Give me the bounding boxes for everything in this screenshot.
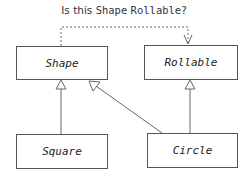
triangle-arrow-icon <box>56 80 66 89</box>
dashed-dependency-line <box>61 27 188 46</box>
rollable-interface-box: Rollable <box>144 45 238 80</box>
question-prefix: Is this <box>61 4 95 16</box>
shape-class-box: Shape <box>16 46 108 80</box>
square-class-label: Square <box>42 145 82 158</box>
question-rollable: Rollable <box>131 4 182 16</box>
triangle-arrow-icon <box>185 80 195 89</box>
triangle-arrow-icon <box>89 81 100 91</box>
question-label: Is this Shape Rollable? <box>0 4 248 16</box>
shape-class-label: Shape <box>45 57 78 70</box>
question-suffix: ? <box>181 4 187 16</box>
rollable-interface-label: Rollable <box>165 56 218 69</box>
square-class-box: Square <box>16 134 108 169</box>
inheritance-line-circle-shape <box>96 86 162 133</box>
circle-class-box: Circle <box>147 133 238 168</box>
question-shape: Shape <box>96 4 128 16</box>
circle-class-label: Circle <box>173 144 213 157</box>
